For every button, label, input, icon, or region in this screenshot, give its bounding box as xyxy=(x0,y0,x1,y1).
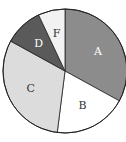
slice-label-c: C xyxy=(27,82,35,95)
slice-label-a: A xyxy=(93,45,103,58)
slice-label-f: F xyxy=(53,27,61,40)
pie-chart: ABCDF xyxy=(0,0,126,142)
slice-label-b: B xyxy=(78,99,86,112)
slice-label-d: D xyxy=(34,37,43,50)
